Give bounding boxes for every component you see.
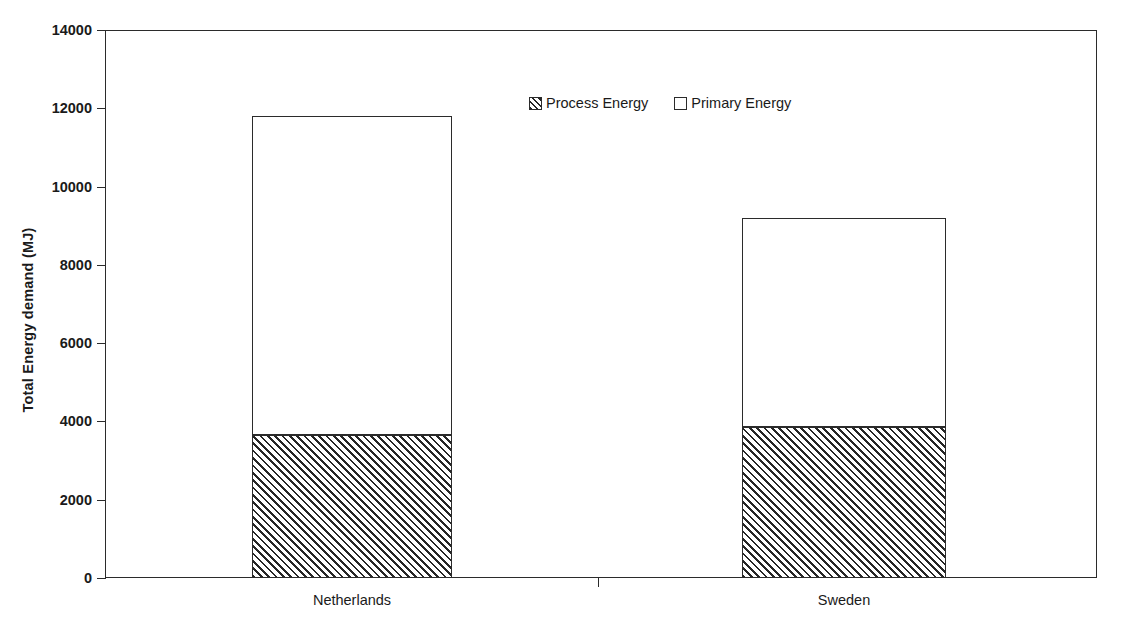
bar-segment-primary-energy[interactable] [742,218,946,427]
y-axis-tick [97,187,106,188]
y-axis-tick-label: 0 [84,571,92,586]
y-axis-title: Total Energy demand (MJ) [14,0,40,639]
y-axis-tick [97,343,106,344]
bar-stack-netherlands[interactable] [252,30,452,578]
bar-segment-process-energy[interactable] [742,427,946,578]
chart-legend: Process Energy Primary Energy [529,96,791,111]
x-axis-category-label: Netherlands [313,592,391,608]
x-axis-category-label: Sweden [818,592,870,608]
y-axis-tick-label: 4000 [60,414,92,429]
bar-segment-process-energy[interactable] [252,435,452,578]
y-axis-title-text: Total Energy demand (MJ) [19,227,35,412]
y-axis-tick-label: 14000 [52,23,92,38]
y-axis-tick [97,108,106,109]
empty-square-icon [674,97,687,110]
legend-label-primary-energy: Primary Energy [691,96,791,111]
hatched-square-icon [529,97,542,110]
y-axis-tick [97,421,106,422]
bar-stack-sweden[interactable] [742,30,946,578]
energy-demand-chart: Total Energy demand (MJ) 020004000600080… [0,0,1127,639]
legend-label-process-energy: Process Energy [546,96,648,111]
legend-item-process-energy[interactable]: Process Energy [529,96,648,111]
y-axis-tick-label: 12000 [52,101,92,116]
y-axis-tick [97,265,106,266]
legend-item-primary-energy[interactable]: Primary Energy [674,96,791,111]
bar-segment-primary-energy[interactable] [252,116,452,435]
y-axis-tick-label: 6000 [60,336,92,351]
y-axis-tick-label: 2000 [60,492,92,507]
y-axis-tick [97,500,106,501]
y-axis-tick [97,30,106,31]
x-axis-tick [598,578,599,587]
y-axis-tick-label: 8000 [60,258,92,273]
y-axis-tick [97,578,106,579]
y-axis-tick-label: 10000 [52,179,92,194]
